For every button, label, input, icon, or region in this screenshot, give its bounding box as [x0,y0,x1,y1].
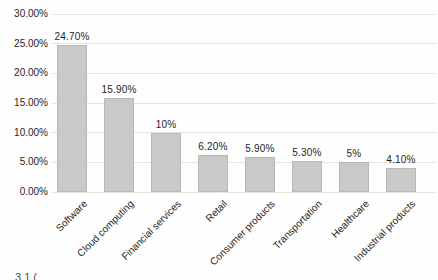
y-axis-tick-label: 20.00% [0,67,48,78]
bar-cloud-computing [104,98,134,192]
x-axis-tick-label: Software [53,198,89,234]
y-axis-tick-label: 5.00% [0,156,48,167]
bar-financial-services [151,133,181,192]
gridline [52,14,436,15]
x-axis-tick-label: Transportation [271,198,324,251]
bar-industrial-products [386,168,416,192]
bar-software [57,45,87,192]
x-axis-tick-label: Retail [204,198,230,224]
y-axis-tick-label: 30.00% [0,8,48,19]
gridline [52,73,436,74]
x-axis-tick-label: Healthcare [329,198,371,240]
bar-healthcare [339,162,369,192]
data-label: 24.70% [40,31,104,42]
data-label: 4.10% [369,154,433,165]
y-axis-tick-label: 15.00% [0,97,48,108]
y-axis-tick-label: 0.00% [0,186,48,197]
bar-retail [198,155,228,192]
bar-chart: 30.00%25.00%20.00%15.00%10.00%5.00%0.00%… [0,0,438,280]
bar-consumer-products [245,157,275,192]
data-label: 15.90% [87,84,151,95]
data-label: 10% [134,119,198,130]
gridline [52,43,436,44]
y-axis-tick-label: 10.00% [0,127,48,138]
caption-fragment: 3.1 ( [15,271,37,280]
bar-transportation [292,161,322,192]
